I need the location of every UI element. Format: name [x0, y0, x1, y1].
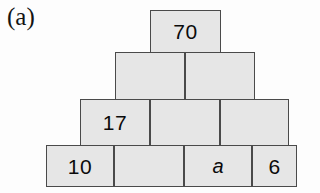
pyramid-cell-value: 17 [103, 112, 127, 133]
pyramid-cell-r3-c2[interactable] [150, 99, 220, 146]
figure-canvas: (a) 701710a6 [0, 0, 320, 193]
figure-label: (a) [7, 2, 35, 32]
pyramid-cell-r3-c3[interactable] [220, 99, 289, 146]
pyramid-cell-value: 70 [173, 21, 197, 42]
pyramid-cell-value: 10 [68, 156, 92, 177]
pyramid-cell-value: 6 [268, 156, 280, 177]
pyramid-cell-r2-c2[interactable] [185, 52, 255, 100]
pyramid-cell-r4-c4[interactable]: 6 [252, 145, 297, 187]
pyramid-cell-r4-c3[interactable]: a [184, 145, 252, 187]
pyramid-cell-r3-c1[interactable]: 17 [80, 99, 150, 146]
pyramid-cell-r2-c1[interactable] [115, 52, 185, 100]
pyramid-cell-r4-c1[interactable]: 10 [46, 145, 114, 187]
pyramid-cell-value: a [212, 156, 223, 177]
pyramid-cell-r4-c2[interactable] [114, 145, 184, 187]
pyramid-cell-r1-c1[interactable]: 70 [150, 10, 221, 53]
